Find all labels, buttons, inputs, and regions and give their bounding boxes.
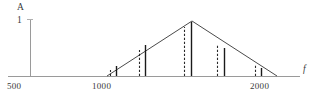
- x-tick-label-2000: 2000: [250, 82, 269, 91]
- plot-canvas: [0, 0, 317, 99]
- y-axis-max-label: 1: [17, 16, 22, 26]
- x-tick-label-500: 500: [7, 82, 21, 91]
- y-axis-label: A: [17, 3, 24, 13]
- x-tick-label-1000: 1000: [92, 82, 111, 91]
- chart-figure: A 1 f 500 1000 2000: [0, 0, 317, 99]
- x-axis-label: f: [303, 65, 306, 75]
